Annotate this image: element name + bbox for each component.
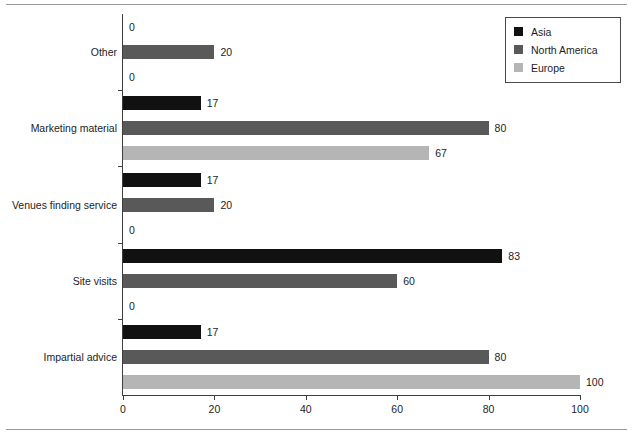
chart-legend: AsiaNorth AmericaEurope (505, 17, 621, 83)
bar-value-asia-other: 0 (129, 20, 135, 34)
category-label-site-visits: Site visits (73, 275, 123, 287)
x-axis-line (122, 395, 581, 396)
bar-north-america-other (123, 45, 214, 59)
bar-asia-venues-finding-service (123, 173, 201, 187)
bar-value-europe-venues-finding-service: 0 (129, 223, 135, 237)
bar-value-north-america-marketing-material: 80 (495, 121, 507, 135)
group-tick (118, 319, 123, 320)
x-tick-40 (306, 395, 307, 400)
bar-north-america-impartial-advice (123, 350, 489, 364)
category-label-other: Other (91, 46, 123, 58)
bar-north-america-site-visits (123, 274, 397, 288)
x-tick-80 (489, 395, 490, 400)
legend-swatch-icon (514, 27, 523, 36)
bar-europe-impartial-advice (123, 375, 580, 389)
category-label-marketing-material: Marketing material (31, 122, 123, 134)
bar-value-north-america-venues-finding-service: 20 (220, 198, 232, 212)
bar-value-europe-marketing-material: 67 (435, 146, 447, 160)
legend-swatch-icon (514, 45, 523, 54)
legend-label: North America (531, 44, 598, 56)
bar-value-north-america-other: 20 (220, 45, 232, 59)
x-tick-label-0: 0 (120, 403, 126, 415)
group-tick (118, 166, 123, 167)
legend-item-asia[interactable]: Asia (514, 24, 612, 39)
x-tick-label-20: 20 (209, 403, 221, 415)
bar-value-asia-impartial-advice: 17 (207, 325, 219, 339)
bar-north-america-venues-finding-service (123, 198, 214, 212)
bar-value-north-america-impartial-advice: 80 (495, 350, 507, 364)
legend-item-north-america[interactable]: North America (514, 42, 612, 57)
bar-value-asia-marketing-material: 17 (207, 96, 219, 110)
x-tick-label-40: 40 (300, 403, 312, 415)
x-tick-60 (397, 395, 398, 400)
bar-value-europe-impartial-advice: 100 (586, 375, 604, 389)
bar-europe-marketing-material (123, 146, 429, 160)
bar-north-america-marketing-material (123, 121, 489, 135)
legend-swatch-icon (514, 63, 523, 72)
x-tick-label-60: 60 (391, 403, 403, 415)
x-tick-0 (123, 395, 124, 400)
bar-value-asia-site-visits: 83 (508, 249, 520, 263)
page-rule-top (6, 4, 627, 5)
x-tick-20 (214, 395, 215, 400)
category-label-venues-finding-service: Venues finding service (12, 199, 123, 211)
group-tick (118, 90, 123, 91)
legend-label: Europe (531, 62, 565, 74)
bar-value-asia-venues-finding-service: 17 (207, 173, 219, 187)
bar-value-europe-site-visits: 0 (129, 299, 135, 313)
chart-page: 020406080100 Other0200Marketing material… (0, 0, 633, 435)
bar-asia-site-visits (123, 249, 502, 263)
x-tick-100 (580, 395, 581, 400)
legend-label: Asia (531, 26, 551, 38)
bar-asia-impartial-advice (123, 325, 201, 339)
x-tick-label-80: 80 (483, 403, 495, 415)
legend-item-europe[interactable]: Europe (514, 60, 612, 75)
bar-asia-marketing-material (123, 96, 201, 110)
page-rule-bottom (6, 429, 627, 430)
x-tick-label-100: 100 (571, 403, 589, 415)
bar-value-europe-other: 0 (129, 70, 135, 84)
bar-value-north-america-site-visits: 60 (403, 274, 415, 288)
group-tick (118, 243, 123, 244)
category-label-impartial-advice: Impartial advice (43, 351, 123, 363)
